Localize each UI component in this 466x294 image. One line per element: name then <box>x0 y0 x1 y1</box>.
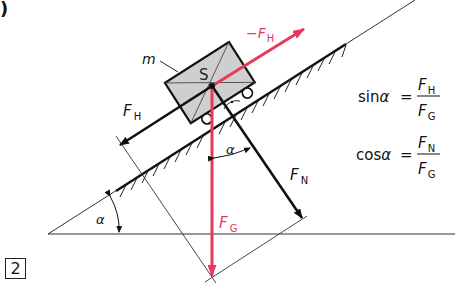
mass-leader-line <box>160 61 178 72</box>
svg-text:=: = <box>400 88 413 106</box>
svg-text:FH: FH <box>418 76 435 96</box>
alpha-label-incline: α <box>96 212 105 227</box>
alpha-label-forces: α <box>226 142 235 157</box>
center-of-mass-point <box>209 83 215 89</box>
svg-text:FG: FG <box>418 160 435 180</box>
mass-label: m <box>142 51 156 67</box>
svg-text:=: = <box>400 146 413 164</box>
svg-text:FN: FN <box>418 134 435 154</box>
neg-fh-label: −FH <box>246 25 274 44</box>
center-label: S <box>199 66 209 84</box>
fg-label: FG <box>219 214 237 234</box>
svg-text:sinα: sinα <box>358 88 390 106</box>
svg-text:cosα: cosα <box>356 146 391 164</box>
formula-sin: sinα = FH FG <box>358 76 440 122</box>
formula-cos: cosα = FN FG <box>356 134 440 180</box>
figure-number-box: 2 <box>5 258 26 279</box>
svg-text:FG: FG <box>418 102 435 122</box>
fn-label: FN <box>290 166 308 186</box>
inclined-plane-diagram: m S −FH FH FN FG α α sinα = FH FG cosα =… <box>0 0 466 294</box>
fh-label: FH <box>123 102 141 122</box>
alpha-arc-incline <box>110 196 119 232</box>
